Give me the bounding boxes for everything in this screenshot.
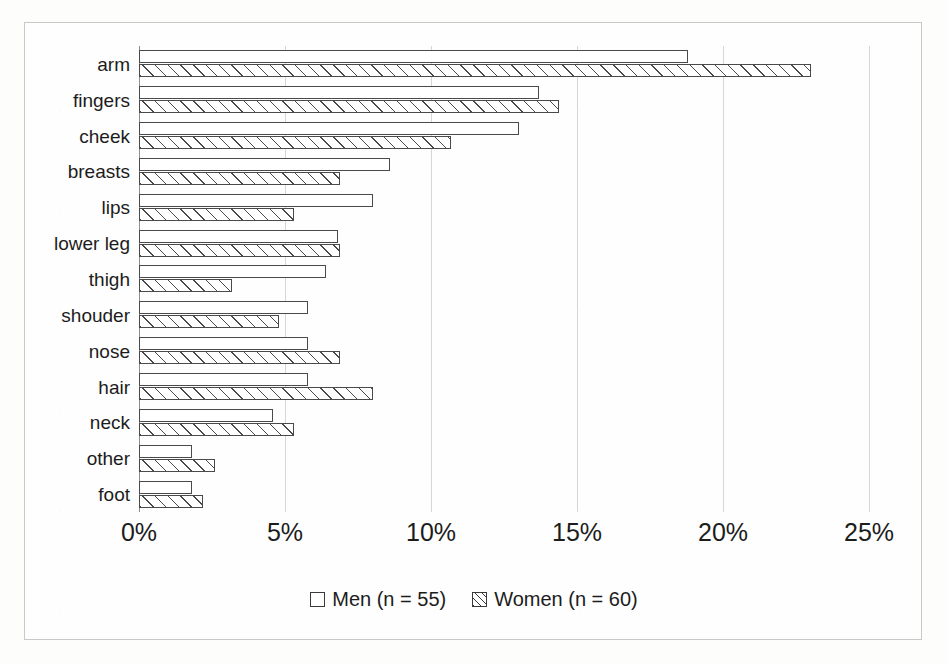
plot-area xyxy=(139,46,873,512)
bar-women[interactable] xyxy=(139,495,203,508)
category-label-other: other xyxy=(87,449,130,468)
bar-group xyxy=(139,297,873,333)
bar-women[interactable] xyxy=(139,459,215,472)
bar-group xyxy=(139,225,873,261)
category-label-hair: hair xyxy=(98,378,130,397)
legend-item[interactable]: Women (n = 60) xyxy=(472,588,638,611)
legend-swatch-open-icon xyxy=(310,592,325,607)
x-tick-label: 10% xyxy=(406,520,456,545)
bar-group xyxy=(139,369,873,405)
category-label-fingers: fingers xyxy=(73,91,130,110)
bar-women[interactable] xyxy=(139,423,294,436)
category-axis-labels: armfingerscheekbreastslipslower legthigh… xyxy=(0,46,130,512)
legend-swatch-hatched-icon xyxy=(472,592,487,607)
bar-group xyxy=(139,476,873,512)
bar-men[interactable] xyxy=(139,86,539,99)
category-label-lips: lips xyxy=(101,198,130,217)
bar-men[interactable] xyxy=(139,194,373,207)
bar-group xyxy=(139,261,873,297)
bar-men[interactable] xyxy=(139,50,688,63)
category-label-foot: foot xyxy=(98,485,130,504)
bar-group xyxy=(139,46,873,82)
bar-women[interactable] xyxy=(139,136,451,149)
x-tick-label: 0% xyxy=(121,520,157,545)
bar-women[interactable] xyxy=(139,244,340,257)
bar-women[interactable] xyxy=(139,387,373,400)
bar-men[interactable] xyxy=(139,337,308,350)
legend-label: Women (n = 60) xyxy=(494,588,638,611)
bar-women[interactable] xyxy=(139,351,340,364)
bar-women[interactable] xyxy=(139,208,294,221)
x-tick-label: 25% xyxy=(844,520,894,545)
bar-group xyxy=(139,333,873,369)
bar-group xyxy=(139,404,873,440)
bar-women[interactable] xyxy=(139,100,559,113)
bar-men[interactable] xyxy=(139,122,519,135)
category-label-shouder: shouder xyxy=(61,306,130,325)
category-label-thigh: thigh xyxy=(89,270,130,289)
bar-group xyxy=(139,189,873,225)
bar-men[interactable] xyxy=(139,445,192,458)
x-tick-label: 20% xyxy=(698,520,748,545)
bar-group xyxy=(139,440,873,476)
bar-men[interactable] xyxy=(139,373,308,386)
category-label-nose: nose xyxy=(89,342,130,361)
bar-men[interactable] xyxy=(139,481,192,494)
chart-legend: Men (n = 55)Women (n = 60) xyxy=(0,588,948,611)
chart-container: armfingerscheekbreastslipslower legthigh… xyxy=(0,0,948,664)
bar-women[interactable] xyxy=(139,315,279,328)
bar-men[interactable] xyxy=(139,265,326,278)
bar-men[interactable] xyxy=(139,409,273,422)
bar-women[interactable] xyxy=(139,172,340,185)
legend-label: Men (n = 55) xyxy=(332,588,446,611)
x-tick-label: 15% xyxy=(552,520,602,545)
category-label-neck: neck xyxy=(90,413,130,432)
bar-group xyxy=(139,118,873,154)
category-label-breasts: breasts xyxy=(68,162,130,181)
category-label-arm: arm xyxy=(97,55,130,74)
bar-women[interactable] xyxy=(139,64,811,77)
bar-women[interactable] xyxy=(139,279,232,292)
bar-group xyxy=(139,154,873,190)
category-label-lower-leg: lower leg xyxy=(54,234,130,253)
bar-men[interactable] xyxy=(139,301,308,314)
category-label-cheek: cheek xyxy=(79,127,130,146)
bar-group xyxy=(139,82,873,118)
legend-item[interactable]: Men (n = 55) xyxy=(310,588,446,611)
bar-men[interactable] xyxy=(139,230,338,243)
x-tick-label: 5% xyxy=(267,520,303,545)
bar-men[interactable] xyxy=(139,158,390,171)
